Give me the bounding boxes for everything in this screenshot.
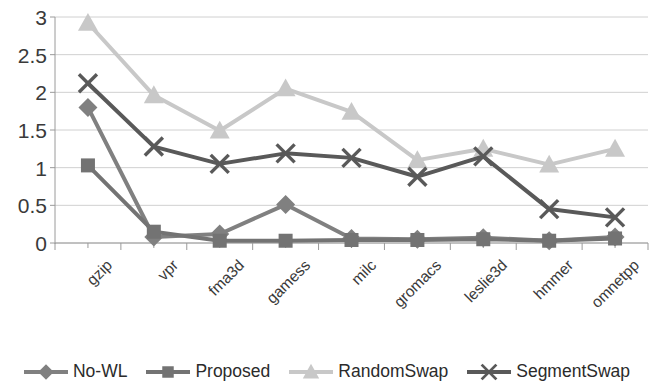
marker-diamond: [38, 364, 54, 380]
legend-label: Proposed: [195, 363, 270, 381]
legend-key-canvas: [145, 362, 191, 382]
marker-square: [542, 234, 556, 248]
legend-marker-diamond-icon: [23, 362, 69, 382]
legend-item-proposed[interactable]: Proposed: [145, 362, 270, 382]
y-axis-label: 0.5: [3, 195, 47, 216]
marker-square: [81, 158, 95, 172]
legend-marker-triangle-icon: [288, 362, 334, 382]
y-axis-label: 0: [3, 233, 47, 254]
marker-triangle: [276, 79, 296, 97]
legend-label: No-WL: [73, 363, 127, 381]
marker-square: [147, 225, 161, 239]
marker-triangle: [78, 13, 98, 31]
chart-legend: No-WLProposedRandomSwapSegmentSwap: [0, 352, 653, 391]
legend-label: RandomSwap: [338, 363, 448, 381]
marker-square: [410, 233, 424, 247]
marker-square: [476, 232, 490, 246]
legend-item-no-wl[interactable]: No-WL: [23, 362, 127, 382]
y-axis-label: 3: [3, 7, 47, 28]
legend-label: SegmentSwap: [516, 363, 630, 381]
series-line: [88, 107, 615, 240]
series-line: [88, 23, 615, 165]
marker-square: [279, 234, 293, 248]
y-axis-label: 2: [3, 82, 47, 103]
y-axis-label: 2.5: [3, 44, 47, 65]
marker-diamond: [276, 195, 295, 214]
marker-square: [608, 231, 622, 245]
legend-key-canvas: [288, 362, 334, 382]
legend-item-segmentswap[interactable]: SegmentSwap: [466, 362, 630, 382]
marker-square: [163, 366, 174, 377]
line-chart: 00.511.522.53 gzipvprfma3dgamessmilcgrom…: [0, 0, 653, 391]
legend-marker-cross-icon: [466, 362, 512, 382]
y-axis-label: 1.5: [3, 120, 47, 141]
marker-triangle: [605, 139, 625, 157]
legend-marker-square-icon: [145, 362, 191, 382]
marker-square: [213, 234, 227, 248]
y-axis-label: 1: [3, 157, 47, 178]
legend-key-canvas: [466, 362, 512, 382]
legend-key-canvas: [23, 362, 69, 382]
marker-square: [345, 233, 359, 247]
legend-item-randomswap[interactable]: RandomSwap: [288, 362, 448, 382]
marker-diamond: [78, 98, 97, 117]
plot-area: 00.511.522.53 gzipvprfma3dgamessmilcgrom…: [0, 0, 653, 330]
